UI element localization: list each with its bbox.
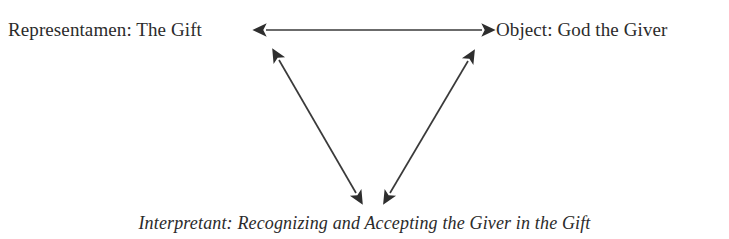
connector-representamen-interpretant xyxy=(279,60,356,193)
connector-object-interpretant xyxy=(390,61,468,193)
node-label-representamen: Representamen: The Gift xyxy=(8,20,202,39)
node-label-interpretant: Interpretant: Recognizing and Accepting … xyxy=(0,214,729,232)
diagram-canvas: Representamen: The Gift Object: God the … xyxy=(0,0,729,239)
node-label-object: Object: God the Giver xyxy=(496,20,667,39)
